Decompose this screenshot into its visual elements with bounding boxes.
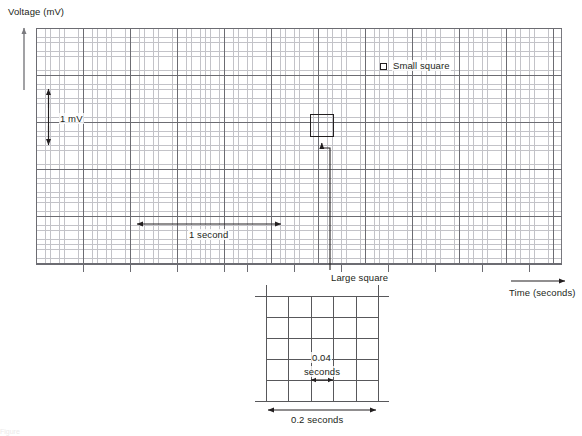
figure-caption-text: Figure: [0, 428, 582, 436]
x-tick: [247, 265, 248, 272]
detail-outer-label: 0.2 seconds: [291, 414, 343, 425]
detail-gridline-h: [266, 317, 378, 318]
x-tick: [177, 265, 178, 272]
large-square-highlight: [310, 114, 334, 138]
x-tick: [482, 265, 483, 272]
x-tick: [341, 265, 342, 272]
detail-inner-label-line2: seconds: [303, 366, 341, 377]
detail-gridline-h: [266, 380, 378, 381]
ecg-grid-paper: [36, 28, 562, 265]
detail-gridline-v: [356, 296, 357, 401]
detail-extension-right: [378, 285, 379, 401]
y-axis-label: Voltage (mV): [8, 6, 64, 17]
detail-extension-top: [255, 296, 389, 297]
x-tick: [83, 265, 84, 272]
x-tick: [388, 265, 389, 272]
time-scale-label: 1 second: [188, 229, 229, 240]
x-tick: [529, 265, 530, 272]
x-tick: [224, 265, 225, 272]
detail-gridline-h: [266, 338, 378, 339]
large-square-detail-grid: [266, 296, 378, 401]
detail-extension-left: [266, 285, 267, 401]
detail-gridline-v: [288, 296, 289, 401]
figure-canvas: Voltage (mV) Small square 1 mV 1 second …: [0, 0, 582, 436]
figure-caption-cropped: Figure: [0, 428, 582, 436]
detail-inner-label-line1: 0.04: [311, 352, 332, 363]
x-tick: [130, 265, 131, 272]
large-square-callout-label: Large square: [331, 272, 388, 283]
x-axis-label: Time (seconds): [509, 287, 576, 298]
small-square-icon: [380, 63, 387, 70]
x-tick: [435, 265, 436, 272]
detail-gridline-v: [333, 296, 334, 401]
voltage-scale-label: 1 mV: [59, 113, 84, 124]
detail-extension-bottom: [255, 401, 389, 402]
small-square-legend-label: Small square: [392, 60, 451, 71]
x-tick: [294, 265, 295, 272]
detail-gridline-v: [311, 296, 312, 401]
